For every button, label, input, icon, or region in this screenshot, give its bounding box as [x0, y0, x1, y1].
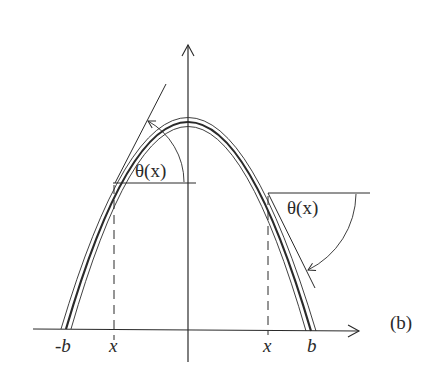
right-angle-label: θ(x): [287, 197, 318, 219]
parabolic-arch-diagram: θ(x) θ(x) -b x x b (b): [0, 0, 444, 373]
tick-label-b: b: [307, 335, 317, 356]
left-angle-label: θ(x): [135, 160, 166, 182]
tick-label-right-x: x: [262, 335, 272, 356]
panel-label: (b): [390, 312, 412, 334]
tick-label-neg-b: -b: [55, 335, 71, 356]
tick-label-left-x: x: [108, 335, 118, 356]
